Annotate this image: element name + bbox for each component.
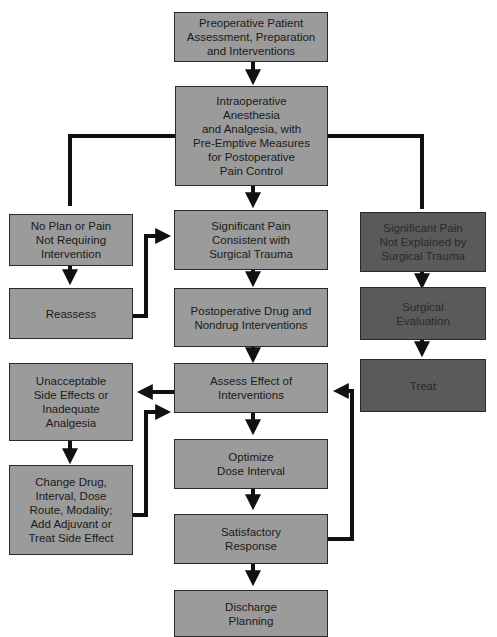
node-assess-effect: Assess Effect of Interventions [174,363,328,413]
node-preoperative-assessment: Preoperative Patient Assessment, Prepara… [174,12,328,62]
node-significant-pain-consistent: Significant Pain Consistent with Surgica… [174,210,328,270]
node-unacceptable-side-effects: Unacceptable Side Effects or Inadequate … [9,363,133,441]
node-postoperative-interventions: Postoperative Drug and Nondrug Intervent… [174,288,328,347]
node-change-drug: Change Drug, Interval, Dose Route, Modal… [9,465,133,555]
node-discharge-planning: Discharge Planning [174,590,328,637]
node-no-plan: No Plan or Pain Not Requiring Interventi… [9,214,133,266]
node-treat: Treat [360,359,486,412]
node-optimize-dose: Optimize Dose Interval [174,439,328,489]
node-satisfactory-response: Satisfactory Response [174,514,328,564]
node-surgical-evaluation: Surgical Evaluation [360,287,486,340]
node-significant-pain-not-explained: Significant Pain Not Explained by Surgic… [360,212,486,272]
node-intraoperative-anesthesia: Intraoperative Anesthesia and Analgesia,… [175,86,328,186]
node-reassess: Reassess [9,288,133,339]
